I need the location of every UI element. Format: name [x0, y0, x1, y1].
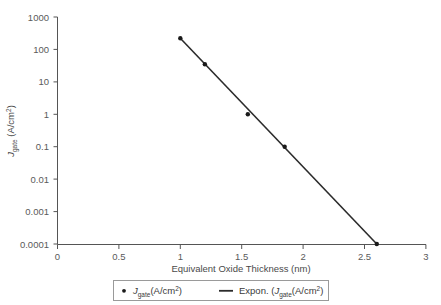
- y-tick-label: 100: [33, 44, 49, 55]
- gate-leakage-semilog-chart: 1000 100 10 1 0.1 0.01 0.001 0.0001 0 0.…: [0, 0, 441, 305]
- x-axis-tick-labels: 0 0.5 1 1.5 2 2.5 3: [55, 251, 429, 262]
- axes: [58, 17, 427, 245]
- y-axis-title-units: (A/cm: [5, 112, 16, 140]
- x-axis-title: Equivalent Oxide Thickness (nm): [171, 263, 310, 274]
- data-point-marker: [203, 62, 207, 66]
- y-axis-ticks: [54, 17, 58, 244]
- chart-legend: Jgate(A/cm2) Expon. (Jgate(A/cm2): [114, 281, 329, 301]
- x-tick-label: 0: [55, 251, 60, 262]
- data-point-marker: [246, 112, 250, 116]
- y-axis-title-subscript: gate: [11, 139, 19, 152]
- x-axis-ticks: [58, 245, 426, 250]
- x-tick-label: 1: [178, 251, 183, 262]
- x-tick-label: 3: [423, 251, 428, 262]
- y-axis-tick-labels: 1000 100 10 1 0.1 0.01 0.001 0.0001: [20, 12, 49, 250]
- legend-dot-marker-icon: [122, 289, 126, 293]
- x-tick-label: 1.5: [235, 251, 248, 262]
- data-point-marker: [282, 145, 286, 149]
- y-axis-title: Jgate (A/cm2): [5, 105, 19, 158]
- y-tick-label: 0.01: [31, 174, 50, 185]
- y-tick-label: 0.001: [25, 206, 49, 217]
- y-tick-label: 1000: [28, 12, 49, 23]
- chart-figure: 1000 100 10 1 0.1 0.01 0.001 0.0001 0 0.…: [0, 0, 441, 305]
- y-tick-label: 0.1: [36, 141, 49, 152]
- data-point-marker: [178, 36, 182, 40]
- exponential-trendline: [180, 38, 376, 244]
- y-axis-title-close: ): [5, 105, 16, 108]
- y-tick-label: 0.0001: [20, 239, 49, 250]
- y-tick-label: 1: [44, 109, 49, 120]
- x-tick-label: 0.5: [112, 251, 125, 262]
- x-tick-label: 2.5: [358, 251, 371, 262]
- svg-text:Jgate (A/cm2): Jgate (A/cm2): [5, 105, 19, 158]
- x-tick-label: 2: [300, 251, 305, 262]
- data-point-marker: [375, 242, 379, 246]
- data-series-group: [178, 36, 379, 246]
- y-tick-label: 10: [38, 76, 49, 87]
